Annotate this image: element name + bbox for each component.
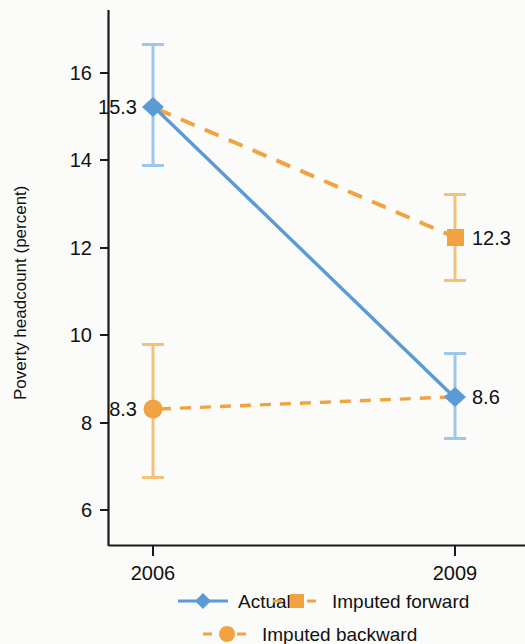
series-imputed-backward [142,344,450,478]
data-value-labels: 15.3 8.3 12.3 8.6 [98,96,511,420]
x-tick-label-2006: 2006 [131,562,176,584]
x-tick-label-2009: 2009 [433,562,478,584]
legend-item-imputed-forward[interactable]: Imputed forward [273,591,469,612]
axes-group [100,10,525,556]
legend-label-imputed-backward: Imputed backward [262,624,417,644]
legend-item-imputed-backward[interactable]: Imputed backward [203,624,417,644]
value-label-imputed-forward-2009: 12.3 [472,227,511,249]
y-tick-label-10: 10 [70,324,92,346]
imputed-forward-line [157,109,452,236]
value-label-actual-2006: 15.3 [98,96,137,118]
series-imputed-forward [157,109,466,281]
value-label-actual-2009: 8.6 [472,386,500,408]
series-actual [142,44,466,439]
legend: Actual Imputed forward Imputed backward [178,591,469,644]
imputed-forward-marker-2009 [447,229,464,246]
legend-marker-square-icon [290,594,304,608]
legend-label-actual: Actual [238,591,291,612]
imputed-backward-line [160,397,450,409]
imputed-backward-marker-2006 [144,400,163,419]
y-axis-title: Poverty headcount (percent) [11,185,30,400]
legend-marker-circle-icon [219,626,235,642]
chart-canvas: 16 14 12 10 8 6 2006 2009 Poverty headco… [0,0,525,644]
y-tick-labels: 16 14 12 10 8 6 [70,62,92,521]
x-tick-labels: 2006 2009 [131,562,478,584]
legend-marker-diamond-icon [195,593,211,609]
legend-label-imputed-forward: Imputed forward [332,591,469,612]
y-tick-label-8: 8 [81,412,92,434]
y-tick-label-16: 16 [70,62,92,84]
actual-line [155,108,453,396]
y-tick-label-6: 6 [81,499,92,521]
y-tick-label-14: 14 [70,149,92,171]
value-label-imputed-backward-2006: 8.3 [109,398,137,420]
y-tick-label-12: 12 [70,237,92,259]
poverty-headcount-chart: 16 14 12 10 8 6 2006 2009 Poverty headco… [0,0,525,644]
